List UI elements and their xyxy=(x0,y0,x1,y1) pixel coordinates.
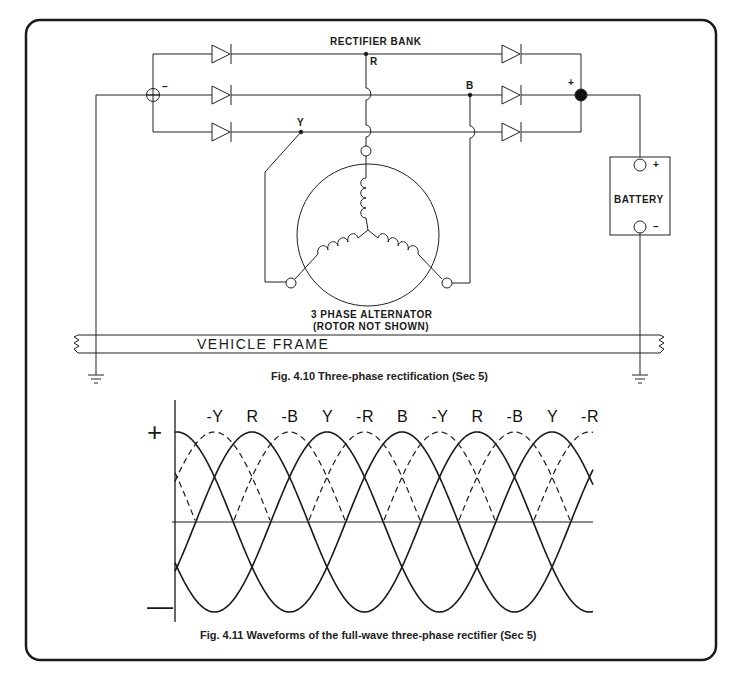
peak-label: R xyxy=(246,409,258,425)
waveform-chart xyxy=(172,400,593,622)
peak-label: -Y xyxy=(207,409,224,425)
vehicle-frame-label: VEHICLE FRAME xyxy=(197,337,329,351)
figure-4-10-caption: Fig. 4.10 Three-phase rectification (Sec… xyxy=(271,371,488,382)
battery-positive-terminal xyxy=(634,159,646,171)
battery-negative-terminal xyxy=(634,221,646,233)
frame-break-right xyxy=(659,335,664,353)
positive-label: + xyxy=(568,78,574,88)
node-y-label: Y xyxy=(297,118,304,128)
peak-label: -B xyxy=(282,409,299,425)
waveform-neg-r xyxy=(175,432,593,520)
peak-label: -Y xyxy=(432,409,449,425)
diode-icon xyxy=(212,122,231,142)
peak-label: -R xyxy=(581,409,599,425)
node-b-label: B xyxy=(466,81,474,91)
alternator-circle xyxy=(297,164,439,306)
diode-icon xyxy=(212,85,231,105)
ground-icon xyxy=(632,375,648,383)
page-border xyxy=(26,20,716,660)
battery-positive-label: + xyxy=(653,160,659,170)
negative-label: – xyxy=(162,82,168,92)
battery-label: BATTERY xyxy=(614,195,664,205)
figure-4-11-caption: Fig. 4.11 Waveforms of the full-wave thr… xyxy=(200,630,536,641)
terminal-y xyxy=(286,278,296,288)
peak-label: R xyxy=(471,409,483,425)
node-r-label: R xyxy=(370,57,378,67)
alternator-label-line2: (ROTOR NOT SHOWN) xyxy=(313,322,429,332)
waveform-neg-y xyxy=(175,432,495,520)
peak-label: Y xyxy=(547,409,558,425)
diode-icon xyxy=(212,44,231,64)
peak-label: -B xyxy=(507,409,524,425)
plus-sign: + xyxy=(147,419,162,445)
coil-icon xyxy=(318,234,358,254)
waveform-neg-b xyxy=(234,432,570,520)
coil-icon xyxy=(361,178,366,218)
terminal-r xyxy=(361,146,371,156)
diagram-canvas xyxy=(0,0,742,676)
peak-label: Y xyxy=(322,409,333,425)
peak-label: B xyxy=(397,409,408,425)
minus-sign: — xyxy=(147,593,173,619)
ground-icon xyxy=(88,375,104,383)
diode-icon xyxy=(502,85,521,105)
peak-label: -R xyxy=(356,409,374,425)
rectifier-circuit xyxy=(74,44,670,383)
diode-icon xyxy=(502,44,521,64)
frame-break-left xyxy=(74,335,79,353)
battery-negative-label: – xyxy=(653,222,659,232)
terminal-b xyxy=(442,278,452,288)
rectifier-bank-label: RECTIFIER BANK xyxy=(330,37,421,47)
diode-icon xyxy=(502,122,521,142)
coil-icon xyxy=(378,234,418,254)
alternator-label-line1: 3 PHASE ALTERNATOR xyxy=(311,310,432,320)
